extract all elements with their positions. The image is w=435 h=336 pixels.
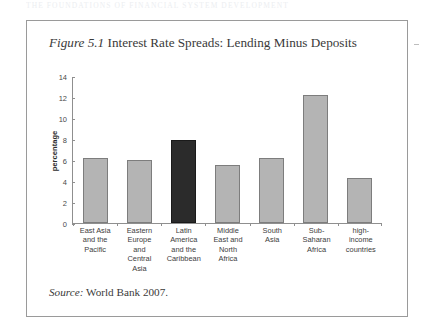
x-axis-line <box>72 223 382 224</box>
bar <box>83 158 108 223</box>
y-axis-tick-label: 12 <box>41 94 72 103</box>
bar <box>347 178 372 223</box>
x-axis-category-label: EasternEuropeandCentralAsia <box>117 226 161 273</box>
bar <box>259 158 284 223</box>
bar-slot <box>73 77 117 223</box>
bar-slot <box>338 77 382 223</box>
bar-slot <box>117 77 161 223</box>
chart-plot-area: percentage 02468101214 <box>72 77 382 224</box>
y-axis-tick-label: 0 <box>41 220 72 229</box>
y-axis-tick-label: 10 <box>41 115 72 124</box>
bar-slot <box>294 77 338 223</box>
bar <box>171 140 196 223</box>
y-axis-tick-label: 14 <box>41 73 72 82</box>
x-axis-category-label: LatinAmericaand theCaribbean <box>162 226 206 273</box>
figure-title: Figure 5.1 Interest Rate Spreads: Lendin… <box>49 35 357 51</box>
y-axis-tick-label: 2 <box>41 199 72 208</box>
y-axis-tick-label: 6 <box>41 157 72 166</box>
bar-series <box>73 77 382 223</box>
figure-frame: Figure 5.1 Interest Rate Spreads: Lendin… <box>26 20 408 317</box>
page-edge-tick <box>414 44 419 45</box>
x-axis-category-label: SouthAsia <box>250 226 294 273</box>
bar-slot <box>161 77 205 223</box>
figure-title-text: Interest Rate Spreads: Lending Minus Dep… <box>107 35 356 50</box>
running-page-header: THE FOUNDATIONS OF FINANCIAL SYSTEM DEVE… <box>26 1 408 10</box>
x-axis-category-label: Sub-SaharanAfrica <box>294 226 338 273</box>
bar <box>215 165 240 223</box>
bar <box>303 95 328 223</box>
source-word: Source: <box>49 286 83 298</box>
figure-source: Source: World Bank 2007. <box>49 286 168 298</box>
y-axis-tick-label: 4 <box>41 178 72 187</box>
x-axis-category-label: MiddleEast andNorthAfrica <box>206 226 250 273</box>
y-axis-tick-label: 8 <box>41 136 72 145</box>
source-text: World Bank 2007. <box>86 286 168 298</box>
x-axis-category-label: East Asiaand thePacific <box>73 226 117 273</box>
figure-number: Figure 5.1 <box>49 35 104 50</box>
bar-slot <box>250 77 294 223</box>
bar <box>127 160 152 223</box>
bar-slot <box>205 77 249 223</box>
x-axis-category-label: high-incomecountries <box>339 226 383 273</box>
x-axis-category-labels: East Asiaand thePacificEasternEuropeandC… <box>73 226 383 273</box>
